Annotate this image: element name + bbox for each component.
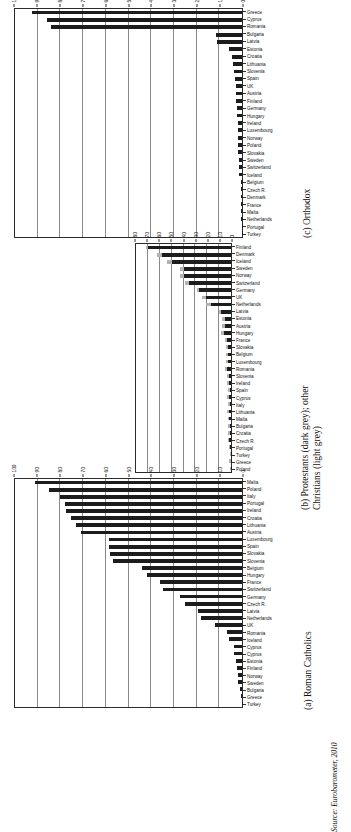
- bar: [226, 360, 231, 364]
- bar-slot: [15, 200, 242, 207]
- bar-segment-protestants: [206, 296, 231, 300]
- category-label-cell: Sweden: [246, 679, 247, 686]
- bar: [222, 317, 231, 321]
- category-label-cell: Switzerland: [246, 586, 247, 593]
- bar-slot: [15, 149, 242, 156]
- category-label: Luxembourg: [247, 537, 273, 542]
- category-label: Finland: [247, 98, 262, 103]
- category-label: Austria: [247, 91, 261, 96]
- bar: [113, 559, 242, 563]
- category-label-cell: Norway: [246, 672, 247, 679]
- tick-mark: [197, 474, 198, 477]
- bar: [239, 158, 242, 162]
- category-label: Spain: [247, 76, 259, 81]
- bar-segment-value: [201, 616, 242, 620]
- category-label: Estonia: [247, 659, 262, 664]
- bar-segment-value: [239, 173, 242, 177]
- category-label-cell: Slovakia: [235, 344, 236, 351]
- category-label: Portugal: [236, 445, 253, 450]
- value-tick-label: 0: [241, 470, 246, 473]
- category-label-cell: Latvia: [235, 308, 236, 315]
- bar-slot: [136, 401, 231, 408]
- bar-slot: [136, 258, 231, 265]
- bar-slot: [15, 134, 242, 141]
- value-tick: 40: [149, 0, 154, 7]
- category-label: Italy: [247, 493, 255, 498]
- bar-slot: [136, 436, 231, 443]
- tick-mark: [59, 4, 60, 7]
- bar: [239, 165, 242, 169]
- category-label: Belgium: [247, 180, 264, 185]
- category-label-cell: Poland: [246, 142, 247, 149]
- category-label-cell: Poland: [246, 485, 247, 492]
- bar: [226, 353, 231, 357]
- bar: [241, 187, 242, 191]
- bar-segment-protestants: [229, 395, 231, 399]
- bar: [225, 367, 231, 371]
- category-label: Lithuania: [247, 61, 266, 66]
- bar: [163, 588, 242, 592]
- category-label: Slovenia: [247, 69, 265, 74]
- category-label: Netherlands: [247, 616, 272, 621]
- bar-segment-protestants: [229, 417, 231, 421]
- bar-slot: [15, 607, 242, 614]
- bar-slot: [15, 515, 242, 522]
- bar-segment-value: [241, 217, 242, 221]
- category-label: Latvia: [247, 39, 259, 44]
- bar-slot: [136, 372, 231, 379]
- category-label: Luxembourg: [236, 359, 262, 364]
- bar: [237, 114, 242, 118]
- tick-mark: [82, 4, 83, 7]
- bar-slot: [136, 387, 231, 394]
- bar: [76, 523, 242, 527]
- category-label-cell: Sweden: [246, 156, 247, 163]
- tick-mark: [197, 4, 198, 7]
- category-label: Spain: [247, 544, 259, 549]
- bar: [232, 55, 242, 59]
- value-tick-label: 80: [133, 232, 138, 237]
- plot-area-orthodox: [14, 8, 243, 238]
- category-label: Poland: [247, 143, 261, 148]
- category-label-cell: Luxembourg: [246, 127, 247, 134]
- value-tick-label: 0: [241, 0, 246, 3]
- bar-segment-value: [232, 55, 242, 59]
- category-label: Portugal: [247, 501, 264, 506]
- value-tick-label: 80: [57, 0, 62, 3]
- tick-mark: [14, 474, 15, 477]
- category-label-cell: Finland: [246, 665, 247, 672]
- category-label-cell: Malta: [246, 208, 247, 215]
- value-tick-label: 10: [217, 232, 222, 237]
- bar: [241, 195, 242, 199]
- plot-area-protestants: [135, 243, 232, 473]
- category-label: France: [236, 338, 250, 343]
- category-label: Slovenia: [236, 373, 254, 378]
- bar-segment-value: [35, 481, 242, 485]
- bar: [109, 545, 242, 549]
- bar: [60, 495, 242, 499]
- bar-slot: [15, 664, 242, 671]
- value-tick-label: 60: [157, 232, 162, 237]
- bar: [234, 645, 242, 649]
- value-tick-label: 30: [172, 467, 177, 472]
- category-label-cell: Lithuania: [246, 60, 247, 67]
- bar-segment-protestants: [199, 288, 231, 292]
- bar-slot: [15, 193, 242, 200]
- bar-segment-value: [109, 538, 242, 542]
- bar-slot: [15, 550, 242, 557]
- bar-slot: [15, 500, 242, 507]
- category-labels: TurkeyGreeceBulgariaSwedenNorwayFinlandE…: [246, 478, 247, 708]
- bar: [229, 47, 242, 51]
- bar-segment-value: [49, 488, 242, 492]
- value-tick: 100: [12, 464, 17, 477]
- bar-segment-value: [237, 666, 242, 670]
- bar-segment-protestants: [225, 317, 231, 321]
- category-label-cell: Lithuania: [235, 408, 236, 415]
- tick-mark: [171, 239, 172, 242]
- bar-slot: [15, 543, 242, 550]
- bar-series-orthodox: [15, 9, 242, 237]
- value-tick: 80: [57, 0, 62, 7]
- category-label: Ireland: [247, 120, 261, 125]
- bar: [147, 573, 242, 577]
- category-label-cell: Finland: [246, 97, 247, 104]
- value-tick-label: 10: [218, 467, 223, 472]
